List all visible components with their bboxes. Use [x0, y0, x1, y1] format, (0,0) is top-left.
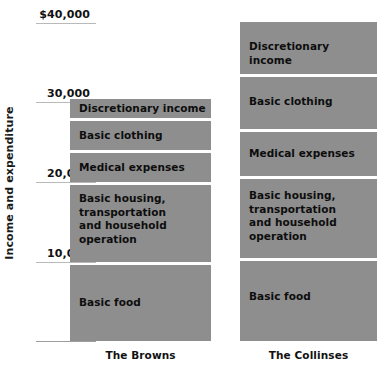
segment-browns-basic-food: Basic food: [70, 265, 211, 341]
segment-browns-basic-clothing: Basic clothing: [70, 121, 211, 150]
stacked-bar-chart: Income and expenditure $40,000 30,000 20…: [0, 0, 377, 366]
segment-collinses-basic-housing: Basic housing, transportation and househ…: [240, 179, 377, 258]
segment-label: Basic housing, transportation and househ…: [240, 179, 341, 243]
segment-collinses-basic-food: Basic food: [240, 261, 377, 341]
segment-label: Basic clothing: [240, 77, 337, 109]
bar-the-collinses: Discretionary income Basic clothing Medi…: [240, 0, 377, 366]
bar-the-browns: Discretionary income Basic clothing Medi…: [70, 0, 211, 366]
segment-label: Discretionary income: [70, 102, 210, 116]
segment-browns-medical-expenses: Medical expenses: [70, 153, 211, 182]
segment-label: Basic food: [70, 296, 145, 310]
segment-browns-discretionary-income: Discretionary income: [70, 99, 211, 118]
segment-collinses-discretionary-income: Discretionary income: [240, 22, 377, 74]
segment-label: Medical expenses: [70, 161, 189, 175]
segment-label: Discretionary income: [240, 22, 377, 67]
segment-label: Basic food: [240, 261, 315, 304]
segment-browns-basic-housing: Basic housing, transportation and househ…: [70, 185, 211, 262]
segment-label: Basic clothing: [70, 129, 167, 143]
segment-collinses-medical-expenses: Medical expenses: [240, 132, 377, 176]
category-label-the-browns: The Browns: [70, 349, 211, 361]
category-label-the-collinses: The Collinses: [240, 349, 377, 361]
y-axis-title: Income and expenditure: [0, 0, 18, 366]
segment-label: Medical expenses: [240, 132, 359, 161]
segment-label: Basic housing, transportation and househ…: [70, 185, 171, 246]
segment-collinses-basic-clothing: Basic clothing: [240, 77, 377, 129]
